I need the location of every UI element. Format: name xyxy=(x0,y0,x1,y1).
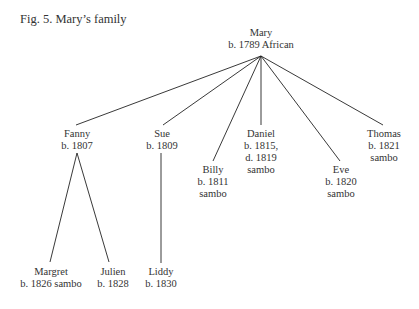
family-tree-edges xyxy=(0,0,419,309)
edge-mary-thomas xyxy=(261,56,383,125)
node-daniel: Daniel b. 1815, d. 1819 sambo xyxy=(244,128,278,176)
node-detail: b. 1815, xyxy=(244,140,278,152)
node-liddy: Liddy b. 1830 xyxy=(145,266,177,290)
edge-fanny-julien xyxy=(77,153,109,262)
node-detail: d. 1819 xyxy=(244,152,278,164)
node-name: Sue xyxy=(146,128,178,140)
node-detail: sambo xyxy=(367,152,401,164)
edge-mary-fanny xyxy=(76,56,261,125)
node-detail: b. 1830 xyxy=(145,278,177,290)
node-name: Liddy xyxy=(145,266,177,278)
node-detail: b. 1826 sambo xyxy=(20,278,82,290)
node-detail: b. 1821 xyxy=(367,140,401,152)
node-detail: sambo xyxy=(197,188,228,200)
node-name: Eve xyxy=(325,164,357,176)
node-mary: Mary b. 1789 African xyxy=(228,27,294,51)
node-sue: Sue b. 1809 xyxy=(146,128,178,152)
node-detail: b. 1809 xyxy=(146,140,178,152)
node-thomas: Thomas b. 1821 sambo xyxy=(367,128,401,164)
node-name: Billy xyxy=(197,164,228,176)
node-detail: b. 1807 xyxy=(61,140,93,152)
node-name: Julien xyxy=(97,266,129,278)
node-name: Thomas xyxy=(367,128,401,140)
node-detail: b. 1811 xyxy=(197,176,228,188)
node-julien: Julien b. 1828 xyxy=(97,266,129,290)
node-detail: b. 1820 xyxy=(325,176,357,188)
node-name: Daniel xyxy=(244,128,278,140)
node-eve: Eve b. 1820 sambo xyxy=(325,164,357,200)
node-billy: Billy b. 1811 sambo xyxy=(197,164,228,200)
node-margret: Margret b. 1826 sambo xyxy=(20,266,82,290)
node-name: Margret xyxy=(20,266,82,278)
node-detail: sambo xyxy=(244,164,278,176)
node-name: Fanny xyxy=(61,128,93,140)
node-name: Mary xyxy=(228,27,294,39)
node-detail: b. 1789 African xyxy=(228,39,294,51)
edge-fanny-margret xyxy=(50,153,77,262)
edge-mary-sue xyxy=(163,56,261,125)
node-detail: sambo xyxy=(325,188,357,200)
node-fanny: Fanny b. 1807 xyxy=(61,128,93,152)
node-detail: b. 1828 xyxy=(97,278,129,290)
